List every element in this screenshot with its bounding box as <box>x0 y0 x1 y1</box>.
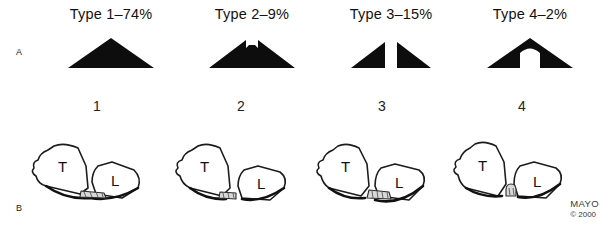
anatomy-cell-2: T L <box>162 126 317 218</box>
bone-diagram-2: T L <box>162 126 317 218</box>
bone-label-t-3: T <box>341 158 350 175</box>
type-2-glyph-cell <box>177 32 327 74</box>
arch-notch-triangle-icon <box>480 32 580 74</box>
notched-apex-triangle-icon <box>202 32 302 74</box>
bone-label-t-1: T <box>58 158 67 175</box>
bone-label-l-1: L <box>111 172 119 189</box>
bone-diagram-3: T L <box>303 126 458 218</box>
panel-letter-a: A <box>16 47 22 57</box>
credit-block: MAYO © 2000 <box>570 199 599 219</box>
bone-label-t-2: T <box>200 158 209 175</box>
column-number-2: 2 <box>166 98 316 114</box>
type-label-4: Type 4–2% <box>455 6 605 22</box>
anatomy-cell-1: T L <box>18 126 173 218</box>
bone-label-l-3: L <box>395 174 403 191</box>
type-3-glyph-cell <box>316 32 466 74</box>
type-label-3: Type 3–15% <box>316 6 466 22</box>
bone-label-l-2: L <box>257 175 265 192</box>
split-triangle-pair-icon <box>341 32 441 74</box>
column-number-3: 3 <box>307 98 457 114</box>
bone-diagram-1: T L <box>18 126 173 218</box>
bone-label-t-4: T <box>478 157 487 174</box>
credit-name: MAYO <box>570 199 599 210</box>
type-1-glyph-cell <box>36 32 186 74</box>
type-label-1: Type 1–74% <box>36 6 186 22</box>
column-number-1: 1 <box>22 98 172 114</box>
solid-triangle-icon <box>61 32 161 74</box>
bone-label-l-4: L <box>533 173 541 190</box>
type-4-glyph-cell <box>455 32 605 74</box>
type-label-2: Type 2–9% <box>177 6 327 22</box>
column-number-4: 4 <box>447 98 597 114</box>
anatomy-cell-3: T L <box>303 126 458 218</box>
figure-root: A Type 1–74% Type 2–9% Type 3–15% Type 4… <box>0 0 605 225</box>
credit-year: © 2000 <box>570 210 599 219</box>
